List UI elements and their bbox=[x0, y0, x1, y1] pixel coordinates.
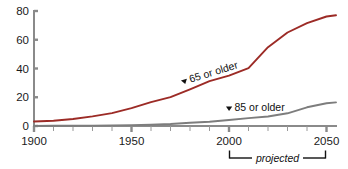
x-tick-label-2000: 2000 bbox=[216, 135, 242, 147]
projected-label: projected bbox=[255, 152, 300, 164]
y-tick-label-40: 40 bbox=[16, 63, 29, 75]
x-tick-label-1900: 1900 bbox=[21, 135, 47, 147]
annotation-label-85: 85 or older bbox=[235, 101, 286, 113]
y-tick-label-20: 20 bbox=[16, 91, 29, 103]
x-tick-label-1950: 1950 bbox=[119, 135, 145, 147]
chart-background bbox=[0, 0, 348, 169]
y-tick-label-0: 0 bbox=[23, 120, 29, 132]
x-tick-label-2050: 2050 bbox=[314, 135, 340, 147]
annotation-85-or-older: 85 or older bbox=[226, 101, 285, 113]
y-tick-label-80: 80 bbox=[16, 5, 29, 17]
chart-canvas: 80 60 40 20 0 bbox=[0, 0, 348, 169]
line-chart: 80 60 40 20 0 bbox=[0, 0, 348, 169]
y-tick-label-60: 60 bbox=[16, 34, 29, 46]
